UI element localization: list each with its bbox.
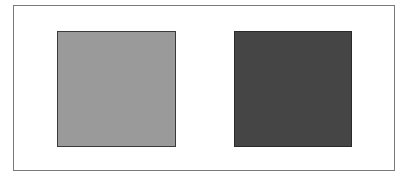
light-gray-square xyxy=(57,31,176,147)
dark-gray-square xyxy=(234,31,352,147)
